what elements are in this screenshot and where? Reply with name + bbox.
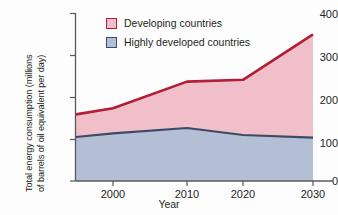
legend-item-highly-developed: Highly developed countries	[106, 34, 306, 50]
energy-consumption-area-chart: Total energy consumption (millions of ba…	[0, 0, 338, 215]
legend-label-developing: Developing countries	[124, 17, 222, 29]
pink-swatch-icon	[106, 18, 117, 29]
chart-legend: Developing countries Highly developed co…	[106, 15, 306, 53]
x-axis-title: Year	[0, 198, 338, 210]
legend-item-developing: Developing countries	[106, 15, 306, 31]
blue-swatch-icon	[106, 37, 117, 48]
legend-label-highly-developed: Highly developed countries	[124, 36, 250, 48]
